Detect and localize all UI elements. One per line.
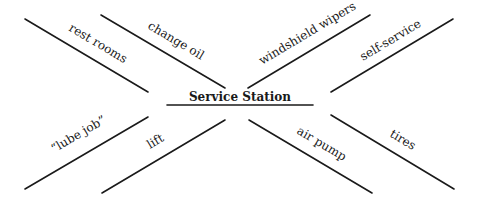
center-label: Service Station [189, 90, 291, 104]
leg-windshield-wipers: windshield wipers [248, 0, 370, 88]
leg-line [331, 115, 454, 189]
leg-label: windshield wipers [256, 0, 358, 68]
leg-label: tires [387, 127, 418, 153]
leg-label: lift [144, 131, 166, 152]
leg-lift: lift [102, 120, 225, 193]
spider-diagram: Service Station rest rooms change oil wi… [0, 0, 484, 213]
leg-air-pump: air pump [249, 120, 372, 193]
leg-label: air pump [294, 124, 349, 164]
leg-line [102, 120, 225, 193]
leg-label: rest rooms [66, 21, 129, 66]
leg-label: change oil [145, 19, 206, 63]
leg-tires: tires [331, 115, 454, 189]
leg-rest-rooms: rest rooms [25, 19, 148, 92]
center-node: Service Station [167, 90, 313, 105]
leg-label: “lube job” [48, 113, 108, 156]
